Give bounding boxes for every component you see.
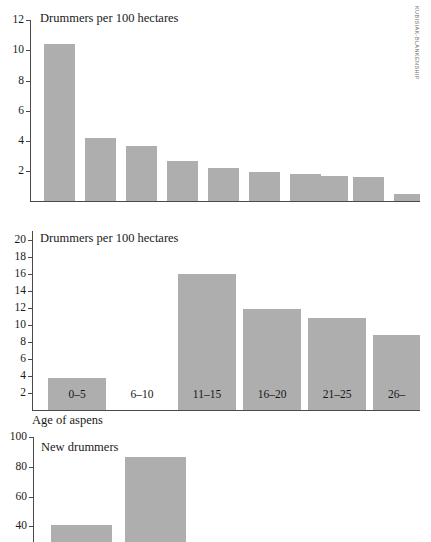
bar-new-drummers-2[interactable]: [125, 457, 186, 542]
y-ticklabel-60: 60: [0, 491, 27, 503]
figure-page: KUBISIAK-BLANKENSHIP 12 10 8 6 4 2 Drumm…: [0, 0, 431, 542]
y-ticklabel-40: 40: [0, 520, 27, 532]
y-tick-40: [29, 526, 34, 527]
y-ticklabel-100: 100: [0, 431, 27, 443]
y-tick-100: [29, 437, 34, 438]
new-drummers-chart: 100 80 60 40 New drummers: [0, 0, 431, 542]
y-tick-60: [29, 497, 34, 498]
y-ticklabel-80: 80: [0, 461, 27, 473]
y-tick-80: [29, 467, 34, 468]
bar-new-drummers-1[interactable]: [51, 525, 112, 542]
chart-title: New drummers: [41, 441, 118, 454]
